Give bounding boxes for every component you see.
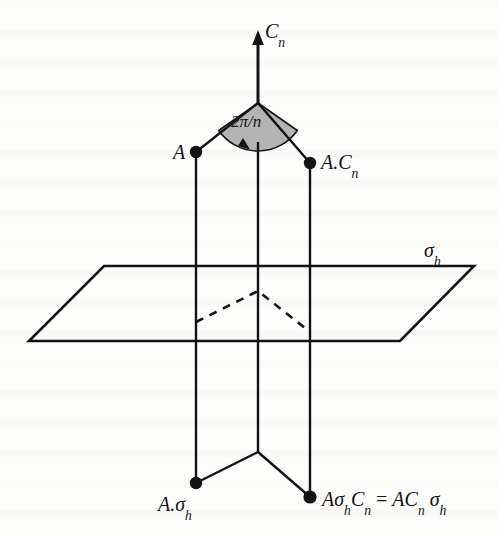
- hidden-chevron-dashed: [196, 291, 310, 332]
- cn-axis-arrow: [252, 30, 264, 103]
- diagram-canvas: [0, 0, 499, 536]
- label-cn-axis: Cn: [265, 21, 285, 41]
- label-point-a-sigmah-cn: AσhCn = ACn σh: [322, 489, 446, 509]
- sigma-h-plane: [29, 266, 474, 341]
- label-point-a-sigmah: A.σh: [158, 494, 192, 514]
- dot-a: [190, 146, 202, 158]
- label-point-a: A: [173, 142, 185, 162]
- label-rotation-angle: 2π/n: [231, 113, 261, 130]
- dot-a-sigmah-cn: [303, 490, 316, 503]
- vertex-dots: [190, 146, 317, 504]
- figure-page: Cn A A.Cn σh A.σh AσhCn = ACn σh 2π/n: [0, 0, 499, 536]
- vertical-connectors: [196, 142, 310, 497]
- label-point-a-cn: A.Cn: [321, 152, 358, 172]
- label-sigma-h-plane: σh: [424, 240, 441, 260]
- dot-a-sigmah: [190, 477, 202, 489]
- lower-chevron: [196, 452, 310, 497]
- dot-a-cn: [304, 157, 316, 169]
